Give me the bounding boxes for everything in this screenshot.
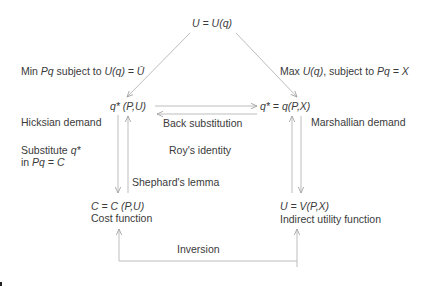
max-uq: U(q) xyxy=(303,65,323,77)
label-min-problem: Min Pq subject to U(q) = Ū xyxy=(21,65,144,77)
label-back-substitution: Back substitution xyxy=(163,117,242,129)
label-shephards-lemma: Shephard's lemma xyxy=(132,176,219,188)
min-mid: subject to xyxy=(54,65,105,77)
label-substitute-line1: Substitute q* xyxy=(21,144,81,156)
node-hicksian: q* (P,U) xyxy=(110,100,146,112)
label-marshallian-demand: Marshallian demand xyxy=(311,116,406,128)
min-pq: Pq xyxy=(41,65,54,77)
corner-mark xyxy=(0,282,2,286)
substitute-prefix: Substitute xyxy=(21,144,71,156)
node-marshallian: q* = q(P,X) xyxy=(260,100,310,112)
min-uq: U(q) xyxy=(104,65,124,77)
node-cost: C = C (P,U) xyxy=(91,200,144,212)
label-cost-function: Cost function xyxy=(91,212,152,224)
label-hicksian-demand: Hicksian demand xyxy=(21,116,102,128)
min-rhs: = Ū xyxy=(125,65,145,77)
label-max-problem: Max U(q), subject to Pq = X xyxy=(280,65,409,77)
label-substitute-line2: in Pq = C xyxy=(21,156,65,168)
label-indirect-utility: Indirect utility function xyxy=(280,213,381,225)
substitute-in: in xyxy=(21,156,32,168)
node-indirect-utility: U = V(P,X) xyxy=(280,200,329,212)
label-inversion: Inversion xyxy=(177,243,220,255)
node-utility: U = U(q) xyxy=(192,17,232,29)
label-roys-identity: Roy's identity xyxy=(169,144,231,156)
max-pq: Pq = X xyxy=(377,65,409,77)
substitute-var: q* xyxy=(71,144,81,156)
max-prefix: Max xyxy=(280,65,303,77)
min-prefix: Min xyxy=(21,65,41,77)
substitute-eq: Pq = C xyxy=(32,156,64,168)
max-mid: , subject to xyxy=(323,65,377,77)
